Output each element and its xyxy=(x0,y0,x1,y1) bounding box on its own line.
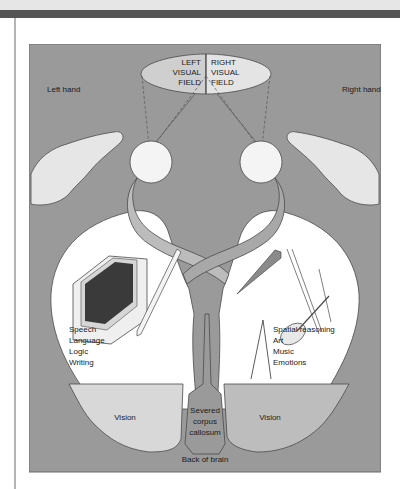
function-label: Emotions xyxy=(273,358,306,367)
label-line: LEFT xyxy=(181,58,201,67)
corpus-callosum-label: Severed corpus callosum xyxy=(189,406,221,437)
function-label: Speech xyxy=(69,325,96,334)
page-top-strip xyxy=(0,0,400,10)
split-brain-diagram: LEFT VISUAL FIELD RIGHT VISUAL FIELD Lef… xyxy=(29,44,381,489)
label-line: RIGHT xyxy=(211,58,236,67)
left-vision-label: Vision xyxy=(114,413,136,422)
label-line: VISUAL xyxy=(173,68,202,77)
label-line: VISUAL xyxy=(211,68,240,77)
margin-rule xyxy=(14,18,16,489)
function-label: Logic xyxy=(69,347,88,356)
label-line: FIELD xyxy=(211,78,234,87)
function-label: Writing xyxy=(69,358,94,367)
back-of-brain-label: Back of brain xyxy=(182,455,229,464)
visual-field-ellipse xyxy=(141,54,271,94)
function-label: Spatial reasoning xyxy=(273,325,335,334)
left-eye xyxy=(130,141,172,183)
label-line: Severed xyxy=(190,406,220,415)
right-eye xyxy=(240,141,282,183)
left-hand-label: Left hand xyxy=(47,85,80,94)
function-label: Art xyxy=(273,336,284,345)
label-line: callosum xyxy=(189,428,221,437)
page-header-bar xyxy=(0,10,400,18)
function-label: Music xyxy=(273,347,294,356)
function-label: Language xyxy=(69,336,105,345)
label-line: corpus xyxy=(193,417,217,426)
diagram-canvas: LEFT VISUAL FIELD RIGHT VISUAL FIELD Lef… xyxy=(29,44,381,489)
label-line: FIELD xyxy=(178,78,201,87)
right-vision-label: Vision xyxy=(259,413,281,422)
right-hand-label: Right hand xyxy=(342,85,381,94)
